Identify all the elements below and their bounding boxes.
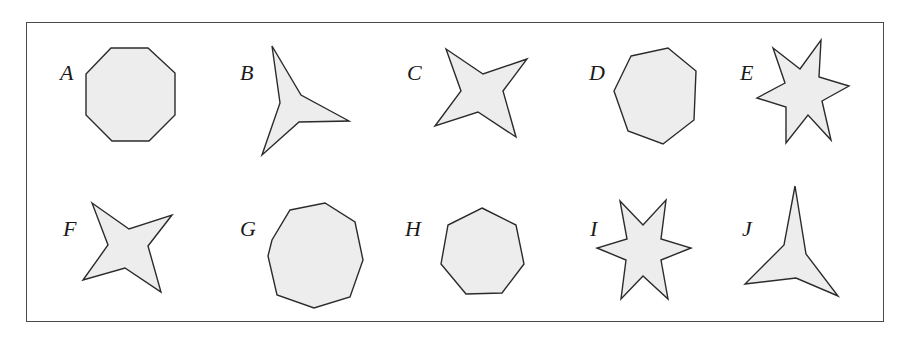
shapes-canvas	[0, 0, 911, 343]
label-j: J	[742, 218, 752, 240]
label-i: I	[590, 218, 597, 240]
label-d: D	[589, 62, 605, 84]
shape-d-heptagon	[614, 48, 696, 144]
label-a: A	[60, 62, 73, 84]
shape-g-nonagon	[268, 203, 363, 308]
label-e: E	[740, 62, 753, 84]
label-g: G	[240, 218, 256, 240]
label-c: C	[407, 62, 422, 84]
shape-h-heptagon	[441, 208, 524, 294]
shape-e-six-point-star	[757, 40, 849, 143]
label-h: H	[405, 218, 421, 240]
shape-b-three-point-star	[262, 46, 349, 155]
shape-i-six-point-star	[597, 200, 691, 299]
label-f: F	[63, 218, 76, 240]
shape-f-four-point-star	[83, 203, 172, 292]
shape-c-four-point-star	[435, 49, 527, 137]
shape-j-three-point-star	[745, 186, 838, 296]
shape-a-octagon	[86, 48, 175, 141]
label-b: B	[240, 62, 253, 84]
